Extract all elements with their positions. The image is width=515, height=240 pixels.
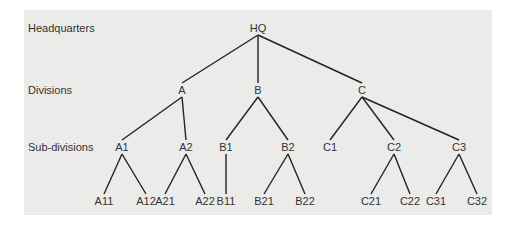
level-label-sub-divisions: Sub-divisions: [28, 141, 93, 153]
edge-A2-A22: [186, 154, 205, 194]
edge-B-B1: [226, 97, 258, 140]
level-label-divisions: Divisions: [28, 84, 72, 96]
node-a11: A11: [95, 195, 114, 207]
node-b: B: [254, 84, 261, 96]
node-hq: HQ: [250, 22, 267, 34]
edge-C-C1: [330, 97, 362, 140]
edge-A2-A21: [165, 154, 186, 194]
node-c21: C21: [361, 195, 381, 207]
edge-A1-A11: [104, 154, 122, 194]
edge-A-A1: [122, 97, 182, 140]
node-b11: B11: [217, 195, 236, 207]
edge-C-C3: [362, 97, 459, 140]
node-a12: A12: [136, 195, 156, 207]
node-b22: B22: [295, 195, 315, 207]
node-a1: A1: [115, 141, 128, 153]
node-b2: B2: [281, 141, 294, 153]
edge-A1-A12: [122, 154, 146, 194]
node-a21: A21: [155, 195, 175, 207]
node-c32: C32: [467, 195, 487, 207]
edge-B2-B21: [264, 154, 288, 194]
edge-HQ-C: [258, 35, 362, 83]
node-a22: A22: [195, 195, 215, 207]
edge-HQ-A: [182, 35, 258, 83]
edge-C2-C21: [371, 154, 394, 194]
node-b21: B21: [254, 195, 274, 207]
edge-B-B2: [258, 97, 288, 140]
edge-C3-C31: [436, 154, 459, 194]
node-a: A: [178, 84, 185, 96]
node-a2: A2: [179, 141, 192, 153]
node-c3: C3: [452, 141, 466, 153]
edge-B2-B22: [288, 154, 305, 194]
edge-A-A2: [182, 97, 186, 140]
level-label-headquarters: Headquarters: [28, 22, 95, 34]
node-c: C: [358, 84, 366, 96]
edge-C3-C32: [459, 154, 477, 194]
node-c31: C31: [426, 195, 446, 207]
node-c1: C1: [323, 141, 337, 153]
node-c22: C22: [400, 195, 420, 207]
node-b1: B1: [219, 141, 232, 153]
node-c2: C2: [387, 141, 401, 153]
edge-C2-C22: [394, 154, 410, 194]
